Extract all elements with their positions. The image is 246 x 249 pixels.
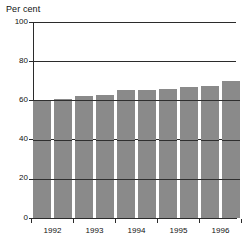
grid-segment (159, 140, 177, 141)
grid-segment (33, 100, 51, 101)
y-tick-label-100: 100 (0, 18, 28, 26)
x-tick-label: 1996 (195, 226, 246, 235)
y-axis-title: Per cent (6, 4, 40, 15)
bar (222, 81, 240, 218)
y-tick-label-20: 20 (0, 174, 28, 182)
x-tick-mark (73, 219, 74, 223)
bar (54, 99, 72, 218)
y-tick-label-40: 40 (0, 135, 28, 143)
bar (75, 96, 93, 218)
grid-segment (96, 140, 114, 141)
grid-segment (75, 179, 93, 180)
grid-segment (75, 100, 93, 101)
plot-area (33, 22, 236, 218)
grid-segment (138, 100, 156, 101)
grid-segment (138, 179, 156, 180)
bar (159, 89, 177, 218)
grid-segment (222, 100, 240, 101)
grid-segment (201, 179, 219, 180)
grid-segment (201, 100, 219, 101)
bar (117, 90, 135, 218)
grid-segment (33, 140, 51, 141)
grid-segment (96, 100, 114, 101)
x-tick-mark (115, 219, 116, 223)
grid-segment (54, 179, 72, 180)
bar (201, 86, 219, 218)
grid-segment (201, 140, 219, 141)
grid-segment (54, 100, 72, 101)
grid-segment (180, 100, 198, 101)
grid-segment (180, 140, 198, 141)
grid-segment (159, 100, 177, 101)
x-tick-mark (199, 219, 200, 223)
x-tick-mark (157, 219, 158, 223)
bar-chart: Per cent 100 80 60 40 20 0 1992199319941… (0, 0, 246, 249)
grid-segment (117, 179, 135, 180)
grid-segment (96, 179, 114, 180)
x-tick-mark (31, 219, 32, 223)
grid-segment (54, 140, 72, 141)
grid-line-100 (33, 22, 236, 23)
x-tick-mark (241, 219, 242, 223)
grid-segment (180, 179, 198, 180)
bar (33, 100, 51, 218)
bar (96, 95, 114, 218)
y-tick-label-60: 60 (0, 96, 28, 104)
grid-segment (222, 179, 240, 180)
grid-segment (117, 100, 135, 101)
y-tick-label-80: 80 (0, 57, 28, 65)
grid-segment (75, 140, 93, 141)
grid-segment (159, 179, 177, 180)
x-axis-line (33, 218, 237, 219)
grid-segment (222, 140, 240, 141)
grid-segment (117, 140, 135, 141)
grid-line-80 (33, 61, 236, 62)
grid-segment (33, 179, 51, 180)
bar (138, 90, 156, 218)
bar (180, 87, 198, 218)
grid-segment (138, 140, 156, 141)
y-tick-label-0: 0 (0, 214, 28, 222)
